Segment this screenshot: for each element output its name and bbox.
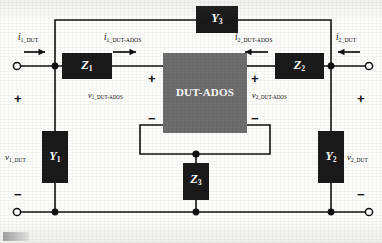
node-bottom-center	[193, 209, 200, 216]
arrow-i1-dut	[24, 49, 45, 55]
current-label-i1-dut-ados: i1_DUT-ADOS	[104, 33, 141, 43]
arrow-i2-dut-ados	[245, 49, 268, 55]
polarity-dut-left-minus: −	[148, 112, 156, 125]
arrow-i2-dut	[338, 49, 360, 55]
arrow-i1-dut-ados	[113, 49, 136, 55]
voltage-label-v2-dut: v2_DUT	[347, 153, 368, 163]
terminal-port2-top	[365, 62, 372, 69]
current-label-i2-dut-ados: i2_DUT-ADOS	[235, 33, 272, 43]
terminal-port2-bottom	[365, 208, 372, 215]
circuit-diagram-canvas: Z1 Z2 Z3 Y1 Y2 Y3 DUT-ADOS i1_DUT i1_DUT…	[0, 0, 382, 243]
voltage-label-v2-dut-ados: v2_DUT-ADOS	[252, 92, 287, 100]
component-label-z3: Z3	[183, 173, 209, 187]
node-left-bottom	[52, 209, 59, 216]
node-right-bottom	[328, 209, 335, 216]
node-left-top	[52, 63, 59, 70]
current-label-i1-dut: i1_DUT	[18, 33, 38, 43]
polarity-dut-right-minus: −	[251, 112, 259, 125]
polarity-port2-minus: −	[357, 188, 365, 201]
component-label-y2: Y2	[318, 150, 344, 164]
polarity-port1-plus: +	[14, 92, 22, 105]
terminal-port1-bottom	[13, 208, 20, 215]
component-label-z2: Z2	[275, 59, 324, 73]
node-center-bottom	[192, 150, 199, 157]
dut-ados-label: DUT-ADOS	[163, 87, 247, 98]
schematic-svg	[0, 0, 382, 243]
polarity-port1-minus: −	[14, 188, 22, 201]
page-scan-artifact	[3, 232, 29, 241]
node-right-top	[328, 63, 335, 70]
voltage-label-v1-dut: v1_DUT	[5, 153, 26, 163]
polarity-dut-right-plus: +	[251, 72, 259, 85]
component-label-z1: Z1	[62, 59, 112, 73]
component-label-y1: Y1	[42, 150, 68, 164]
terminal-port1-top	[13, 62, 20, 69]
polarity-dut-left-plus: +	[148, 72, 156, 85]
component-label-y3: Y3	[196, 12, 238, 26]
current-label-i2-dut: i2_DUT	[336, 33, 356, 43]
voltage-label-v1-dut-ados: v1_DUT-ADOS	[88, 92, 123, 100]
polarity-port2-plus: +	[357, 92, 365, 105]
